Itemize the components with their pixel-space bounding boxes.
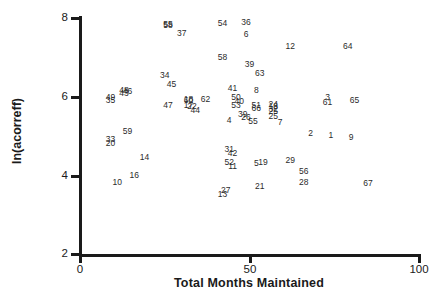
data-point-label: 28 (299, 178, 308, 187)
y-tick-6 (71, 96, 80, 99)
data-point-label: 45 (167, 79, 176, 88)
data-point-label: 10 (113, 178, 122, 187)
data-point-label: 59 (123, 127, 132, 136)
data-point-label: 4 (227, 116, 232, 125)
data-point-label: 13 (218, 190, 227, 199)
data-point-label: 20 (106, 139, 115, 148)
data-point-label: 66 (252, 103, 261, 112)
data-point-label: 58 (163, 21, 172, 30)
y-tick-label-2: 2 (46, 248, 68, 259)
data-point-label: 65 (350, 95, 359, 104)
data-point-label: 21 (255, 182, 264, 191)
y-tick-4 (71, 175, 80, 178)
data-point-label: 61 (323, 98, 332, 107)
y-tick-8 (71, 17, 80, 20)
x-axis-title: Total Months Maintained (79, 276, 419, 290)
data-point-label: 63 (255, 69, 264, 78)
data-point-label: 1 (329, 131, 334, 140)
data-point-label: 35 (106, 95, 115, 104)
y-tick-label-8: 8 (46, 12, 68, 23)
data-point-label: 12 (285, 41, 294, 50)
y-tick-label-4: 4 (46, 170, 68, 181)
y-axis-title: ln(acorreff) (10, 71, 24, 191)
data-point-label: 14 (140, 152, 149, 161)
data-point-label: 55 (248, 117, 257, 126)
data-point-label: 44 (191, 106, 200, 115)
x-tick-label-50: 50 (230, 263, 270, 275)
data-point-label: 47 (163, 100, 172, 109)
data-point-label: 39 (245, 60, 254, 69)
data-point-label: 9 (349, 132, 354, 141)
data-point-label: 43 (119, 88, 128, 97)
data-point-label: 62 (201, 95, 210, 104)
data-point-label: 6 (244, 29, 249, 38)
data-point-label: 2 (308, 128, 313, 137)
data-point-label: 8 (254, 85, 259, 94)
x-tick-label-0: 0 (60, 263, 100, 275)
x-tick-0 (79, 254, 82, 263)
data-point-label: 67 (363, 179, 372, 188)
data-point-label: 29 (285, 156, 294, 165)
x-tick-label-100: 100 (399, 263, 439, 275)
data-point-label: 19 (258, 157, 267, 166)
y-tick-label-6: 6 (46, 91, 68, 102)
data-point-label: 7 (278, 118, 283, 127)
data-point-label: 64 (343, 42, 352, 51)
data-point-label: 25 (268, 112, 277, 121)
data-point-label: 54 (218, 19, 227, 28)
scatter-plot-figure: 8 6 4 2 0 50 100 Total Months Maintained… (0, 0, 440, 296)
x-tick-50 (249, 254, 252, 263)
x-tick-100 (418, 254, 421, 263)
data-point-label: 56 (299, 167, 308, 176)
data-point-label: 16 (129, 171, 138, 180)
data-point-label: 58 (218, 52, 227, 61)
data-point-label: 36 (241, 17, 250, 26)
data-point-label: 37 (177, 28, 186, 37)
data-point-label: 11 (228, 161, 237, 170)
y-axis-line (79, 16, 82, 256)
